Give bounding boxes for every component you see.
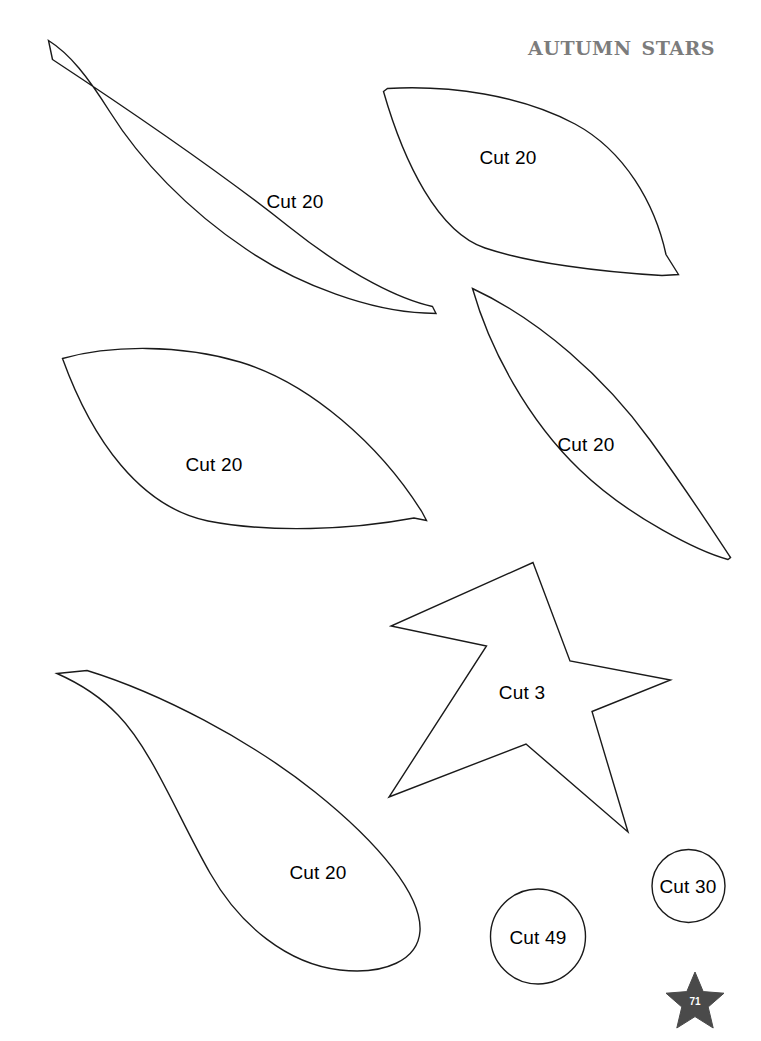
cut-label-star-center: Cut 3 <box>499 683 545 702</box>
page-number-text: 71 <box>664 970 726 1030</box>
piece-outline-leaf-teardrop-bottom-left[interactable] <box>57 671 420 971</box>
cut-label-leaf-large-top-left: Cut 20 <box>266 192 323 211</box>
cut-label-leaf-middle-left: Cut 20 <box>185 455 242 474</box>
pattern-shapes-canvas <box>0 0 761 1041</box>
cut-label-leaf-middle-right: Cut 20 <box>557 435 614 454</box>
cut-label-leaf-teardrop-bottom-left: Cut 20 <box>289 863 346 882</box>
pattern-page: Cut 20 Cut 20 Cut 20 Cut 20 Cut 3 Cut 20… <box>0 0 761 1041</box>
page-number-badge: 71 <box>664 970 726 1030</box>
piece-outline-leaf-middle-right[interactable] <box>473 289 731 560</box>
cut-label-circle-large: Cut 49 <box>509 928 566 947</box>
page-title: Autumn Stars <box>528 30 715 62</box>
page-title-text: Autumn Stars <box>528 30 715 62</box>
cut-label-circle-small: Cut 30 <box>659 877 716 896</box>
piece-outline-leaf-top-right[interactable] <box>384 88 679 276</box>
cut-label-leaf-top-right: Cut 20 <box>479 148 536 167</box>
piece-outline-leaf-large-top-left[interactable] <box>49 41 437 314</box>
piece-outline-leaf-middle-left[interactable] <box>63 348 427 528</box>
